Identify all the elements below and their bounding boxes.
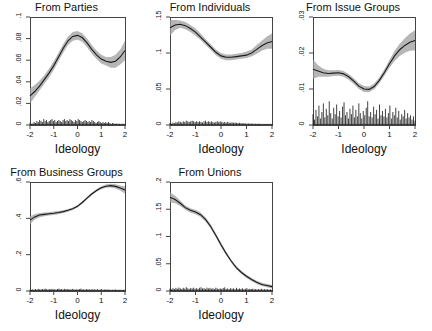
x-tick-label: 2 — [406, 130, 424, 139]
rug-plot — [30, 289, 125, 291]
x-axis-label: Ideology — [30, 142, 125, 156]
axis-ticks — [26, 182, 125, 295]
y-tick-label: .08 — [15, 29, 22, 45]
x-tick-label: -2 — [21, 130, 39, 139]
y-tick-label: .05 — [155, 254, 162, 270]
x-tick-label: -2 — [161, 130, 179, 139]
y-tick-label: .6 — [15, 173, 22, 189]
x-tick-label: -2 — [304, 130, 322, 139]
rug-plot — [170, 287, 272, 291]
axis-ticks — [166, 182, 272, 295]
y-tick-label: .02 — [298, 44, 305, 60]
y-tick-label: .1 — [155, 227, 162, 243]
chart-panel-2: From Issue Groups0.01.02.03-2-1012Ideolo… — [283, 0, 423, 165]
x-tick-label: -1 — [187, 130, 205, 139]
y-tick-label: .03 — [298, 8, 305, 24]
chart-panel-3: From Business Groups0.2.4.6-2-1012Ideolo… — [0, 165, 133, 331]
y-tick-label: .15 — [155, 8, 162, 24]
x-tick-label: 1 — [92, 296, 110, 305]
x-tick-label: 2 — [263, 130, 281, 139]
figure-canvas: From Parties0.02.04.06.08.1-2-1012Ideolo… — [0, 0, 432, 331]
confidence-band — [30, 31, 125, 103]
x-tick-label: -1 — [45, 296, 63, 305]
y-tick-label: .2 — [15, 245, 22, 261]
y-tick-label: .01 — [298, 80, 305, 96]
rug-plot — [30, 119, 125, 125]
x-tick-label: -1 — [330, 130, 348, 139]
x-tick-label: 2 — [263, 296, 281, 305]
y-tick-label: .05 — [155, 80, 162, 96]
x-axis-label: Ideology — [170, 142, 272, 156]
rug-plot — [170, 121, 272, 125]
plot-area — [30, 182, 127, 293]
plot-frame — [31, 183, 126, 292]
x-tick-label: 2 — [116, 296, 134, 305]
x-tick-label: 2 — [116, 130, 134, 139]
y-tick-label: .1 — [155, 44, 162, 60]
y-tick-label: .1 — [15, 8, 22, 24]
plot-frame — [171, 183, 273, 292]
fit-line — [170, 197, 272, 286]
chart-panel-1: From Individuals0.05.1.15-2-1012Ideology — [140, 0, 280, 165]
axis-ticks — [166, 17, 272, 129]
x-tick-label: -1 — [187, 296, 205, 305]
plot-area — [30, 17, 127, 127]
x-axis-label: Ideology — [170, 308, 272, 322]
rug-plot — [313, 101, 415, 125]
plot-frame — [171, 18, 273, 126]
y-tick-label: .04 — [15, 72, 22, 88]
chart-panel-0: From Parties0.02.04.06.08.1-2-1012Ideolo… — [0, 0, 133, 165]
x-tick-label: -2 — [161, 296, 179, 305]
confidence-band — [313, 30, 415, 92]
y-tick-label: .06 — [15, 51, 22, 67]
plot-area — [170, 17, 274, 127]
confidence-band — [170, 192, 272, 288]
y-tick-label: .02 — [15, 94, 22, 110]
x-tick-label: 0 — [69, 296, 87, 305]
x-tick-label: -2 — [21, 296, 39, 305]
x-tick-label: -1 — [45, 130, 63, 139]
plot-area — [313, 17, 417, 127]
x-tick-label: 1 — [92, 130, 110, 139]
x-axis-label: Ideology — [313, 142, 415, 156]
x-tick-label: 1 — [238, 130, 256, 139]
x-tick-label: 0 — [212, 130, 230, 139]
x-tick-label: 1 — [381, 130, 399, 139]
plot-area — [170, 182, 274, 293]
chart-panel-4: From Unions0.05.1.15.2-2-1012Ideology — [140, 165, 280, 331]
y-tick-label: .4 — [15, 209, 22, 225]
x-axis-label: Ideology — [30, 308, 125, 322]
confidence-band — [30, 184, 125, 224]
x-tick-label: 0 — [69, 130, 87, 139]
y-tick-label: .15 — [155, 200, 162, 216]
x-tick-label: 0 — [212, 296, 230, 305]
x-tick-label: 0 — [355, 130, 373, 139]
y-tick-label: .2 — [155, 173, 162, 189]
x-tick-label: 1 — [238, 296, 256, 305]
